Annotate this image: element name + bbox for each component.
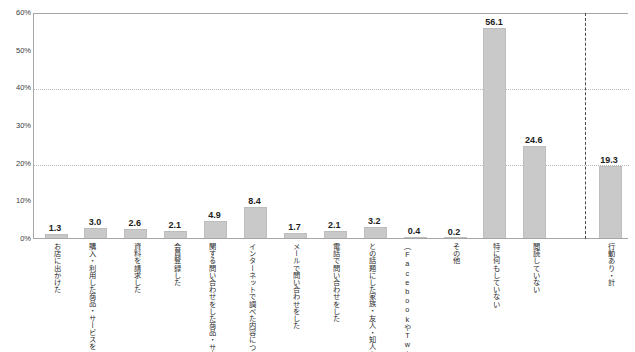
y-axis-tick-label: 0% (3, 235, 31, 243)
category-label-line: メールで問い合わせをした (292, 243, 301, 329)
bar-value-label: 2.1 (151, 220, 199, 230)
category-label: メールで問い合わせをした (292, 243, 301, 348)
category-label: 特に何もしていない (491, 243, 500, 348)
category-label: 行動あり・計 (606, 243, 615, 348)
category-label-line: 閲読していない (531, 243, 540, 293)
x-axis-baseline (33, 238, 628, 239)
bar-value-label: 0.2 (430, 227, 478, 237)
category-label-line: （FacebookやTwitterなど） (402, 243, 411, 352)
y-axis-tick-label: 10% (3, 197, 31, 205)
category-label: 閲読していない (531, 243, 540, 348)
bar (523, 146, 546, 239)
category-label: 家族・友人・知人などとの話題にした (367, 243, 376, 348)
bar-value-label: 56.1 (470, 17, 518, 27)
category-label-line: 会員登録した (172, 243, 181, 286)
category-label-line: 家族・友人・知人など (367, 293, 376, 352)
plot-area (33, 13, 628, 239)
category-label-line: 内容について (247, 322, 256, 352)
bar-chart: 0%10%20%30%40%50%60% 1.33.02.62.14.98.41… (0, 0, 635, 352)
category-label: 商品・サービスに関する問い合わせをした (207, 243, 216, 348)
bar-value-label: 4.9 (191, 210, 239, 220)
bar-value-label: 8.4 (231, 196, 279, 206)
category-label-line: 商品・サービスに (207, 322, 216, 352)
category-label: その他 (451, 243, 460, 348)
category-label-line: 電話で問い合わせをした (332, 243, 341, 322)
category-label-line: インターネットで調べた (247, 243, 256, 322)
category-label-line: 行動あり・計 (606, 243, 615, 286)
bar (204, 221, 227, 239)
category-label-line: との話題にした (367, 243, 376, 293)
bar (244, 207, 267, 239)
bar (599, 166, 622, 239)
gridline (34, 89, 629, 90)
y-axis-tick-label: 40% (3, 84, 31, 92)
y-axis-tick-label: 30% (3, 122, 31, 130)
category-label: ネット上の掲示板やSNSなどに書き込んだ（FacebookやTwitterなど） (402, 243, 411, 348)
bar-value-label: 24.6 (510, 135, 558, 145)
y-axis-tick-label: 20% (3, 160, 31, 168)
section-divider (585, 13, 586, 239)
bar-value-label: 19.3 (585, 155, 633, 165)
category-label-line: 特に何もしていない (491, 243, 500, 308)
category-label: 電話で問い合わせをした (332, 243, 341, 348)
y-axis-tick-label: 60% (3, 9, 31, 17)
y-axis: 0%10%20%30%40%50%60% (0, 0, 31, 352)
category-label: 資料を請求した (132, 243, 141, 348)
bar (483, 28, 506, 239)
category-label: 会員登録した (172, 243, 181, 348)
category-label-line: その他 (451, 243, 460, 265)
category-label: 内容についてインターネットで調べた (247, 243, 256, 348)
category-label: お店に出かけた (52, 243, 61, 348)
category-label: 商品・サービスを購入・利用した (88, 243, 97, 348)
category-label-line: 商品・サービスを (88, 293, 97, 351)
category-label-line: 関する問い合わせをした (207, 243, 216, 322)
bar-value-label: 3.2 (350, 216, 398, 226)
category-label-line: お店に出かけた (52, 243, 61, 293)
category-label-line: 購入・利用した (88, 243, 97, 293)
category-label-line: 資料を請求した (132, 243, 141, 293)
y-axis-tick-label: 50% (3, 47, 31, 55)
